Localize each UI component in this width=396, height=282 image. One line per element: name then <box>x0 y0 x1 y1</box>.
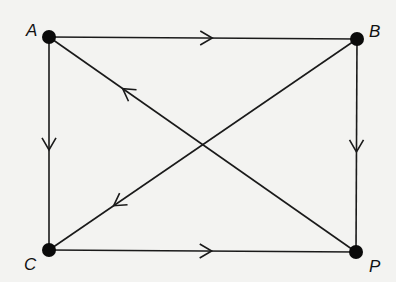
graph-canvas: A B C P <box>0 0 396 282</box>
node-b <box>350 32 364 46</box>
edges-group <box>49 37 357 252</box>
node-label-a: A <box>26 22 37 39</box>
node-label-b: B <box>369 23 380 40</box>
edge-a-b <box>49 37 357 39</box>
node-label-p: P <box>369 258 380 275</box>
node-p <box>349 245 363 259</box>
node-label-c: C <box>24 256 36 273</box>
edge-b-c <box>49 39 357 250</box>
node-a <box>42 30 56 44</box>
directed-graph <box>0 0 396 282</box>
node-c <box>42 243 56 257</box>
edge-c-p <box>49 250 356 252</box>
edge-b-p <box>356 39 357 252</box>
